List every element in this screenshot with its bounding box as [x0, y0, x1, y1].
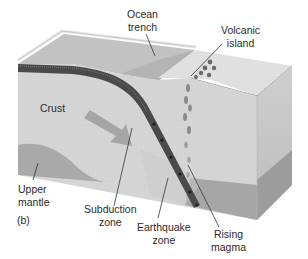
label-earthquake-zone: Earthquake zone: [137, 221, 191, 246]
label-crust: Crust: [40, 102, 65, 115]
label-volcanic-island: Volcanic island: [221, 24, 260, 49]
label-ocean-trench: Ocean trench: [127, 8, 158, 33]
label-rising-magma: Rising magma: [211, 228, 246, 253]
panel-label: (b): [17, 214, 30, 227]
label-upper-mantle: Upper mantle: [18, 183, 50, 208]
front-face: [18, 64, 257, 220]
label-subduction-zone: Subduction zone: [84, 203, 137, 228]
